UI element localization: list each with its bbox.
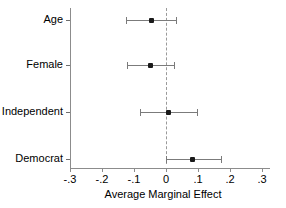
- y-axis-tick: [66, 159, 70, 160]
- y-axis-tick: [66, 20, 70, 21]
- x-axis-tick-label: .3: [242, 173, 282, 185]
- y-axis-tick: [66, 65, 70, 66]
- confidence-interval-cap: [174, 62, 175, 69]
- y-category-label: Age: [43, 14, 63, 25]
- confidence-interval-cap: [140, 109, 141, 116]
- point-estimate-marker: [149, 18, 154, 23]
- point-estimate-marker: [190, 157, 195, 162]
- x-axis-tick: [198, 168, 199, 172]
- coefficient-plot: AgeFemaleIndependentDemocrat -.3-.2-.10.…: [0, 0, 286, 208]
- y-category-label: Democrat: [15, 153, 63, 164]
- confidence-interval-cap: [176, 17, 177, 24]
- confidence-interval-cap: [197, 109, 198, 116]
- confidence-interval-cap: [126, 17, 127, 24]
- confidence-interval-cap: [221, 156, 222, 163]
- y-axis-line: [70, 8, 71, 168]
- x-axis-tick: [262, 168, 263, 172]
- x-axis-line: [70, 168, 270, 169]
- x-axis-tick: [134, 168, 135, 172]
- confidence-interval-cap: [127, 62, 128, 69]
- y-category-label: Female: [26, 59, 63, 70]
- x-axis-tick: [230, 168, 231, 172]
- x-axis-tick: [166, 168, 167, 172]
- x-axis-tick: [102, 168, 103, 172]
- y-category-label: Independent: [2, 106, 63, 117]
- point-estimate-marker: [166, 110, 171, 115]
- point-estimate-marker: [148, 63, 153, 68]
- x-axis-tick: [70, 168, 71, 172]
- x-axis-title-text: Average Marginal Effect: [65, 188, 222, 200]
- x-axis-title: Average Marginal Effect: [0, 188, 286, 200]
- zero-line: [166, 8, 167, 164]
- y-axis-tick: [66, 112, 70, 113]
- confidence-interval-cap: [166, 156, 167, 163]
